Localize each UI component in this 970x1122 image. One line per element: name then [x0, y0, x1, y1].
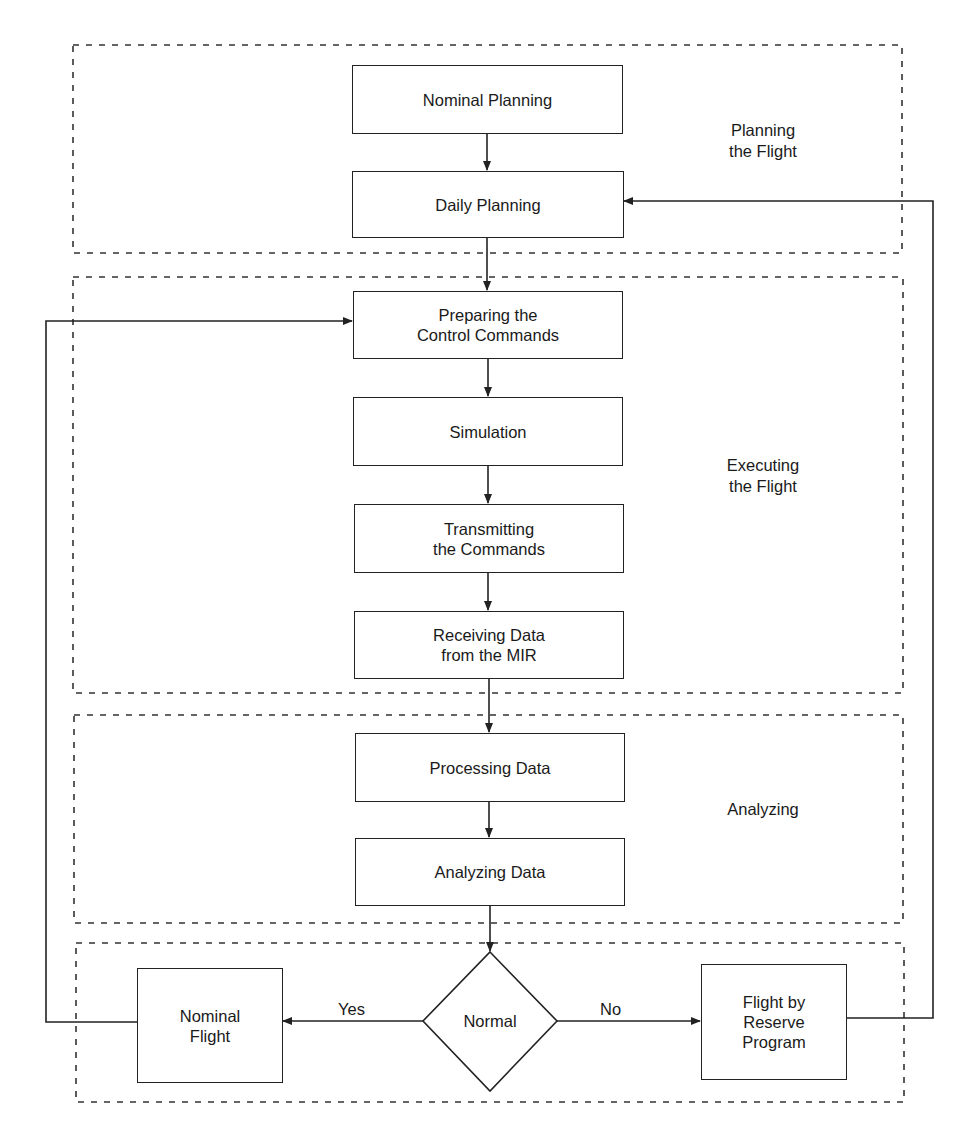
section-label-executing: Executing the Flight — [727, 455, 799, 497]
edge-nominal-flight-feedback — [46, 321, 352, 1022]
section-label-planning: Planning the Flight — [729, 120, 797, 162]
node-receiving: Receiving Data from the MIR — [354, 611, 624, 679]
edge-label-yes: Yes — [338, 999, 365, 1019]
node-daily-planning: Daily Planning — [352, 171, 624, 238]
edge-label-no: No — [600, 999, 621, 1019]
section-label-analyzing: Analyzing — [727, 799, 799, 820]
node-processing: Processing Data — [355, 733, 625, 802]
node-analyzing-data: Analyzing Data — [355, 838, 625, 906]
node-reserve-flight: Flight by Reserve Program — [701, 964, 847, 1080]
node-transmitting: Transmitting the Commands — [354, 504, 624, 573]
edge-reserve-feedback — [624, 201, 933, 1018]
node-preparing-commands: Preparing the Control Commands — [353, 291, 623, 359]
node-nominal-planning: Nominal Planning — [352, 65, 623, 134]
decision-label-normal: Normal — [463, 1011, 516, 1031]
node-simulation: Simulation — [353, 397, 623, 466]
node-nominal-flight: Nominal Flight — [137, 968, 283, 1083]
